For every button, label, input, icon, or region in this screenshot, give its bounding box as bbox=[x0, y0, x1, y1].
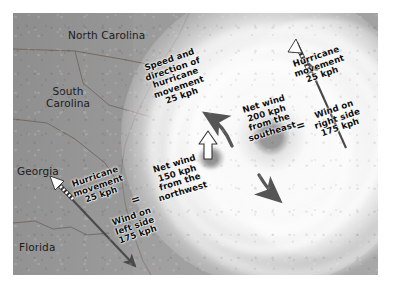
satellite-image-plate: North Carolina South Carolina Georgia Fl… bbox=[13, 13, 378, 275]
figure-root: North Carolina South Carolina Georgia Fl… bbox=[0, 0, 394, 294]
satellite-grain-overlay bbox=[13, 13, 378, 275]
